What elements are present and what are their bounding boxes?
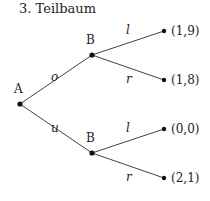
payoff-4: (2,1) bbox=[171, 171, 199, 185]
node-label-B-upper: B bbox=[86, 33, 95, 47]
payoff-3: (0,0) bbox=[171, 122, 199, 136]
node-B-upper bbox=[89, 52, 94, 57]
payoff-1: (1,9) bbox=[171, 24, 199, 38]
edge-label-lower-l: l bbox=[126, 121, 130, 135]
edge-label-upper-r: r bbox=[126, 72, 133, 86]
leaf-1 bbox=[162, 29, 166, 33]
edge-label-lower-r: r bbox=[126, 170, 133, 184]
node-label-B-lower: B bbox=[86, 131, 95, 145]
leaf-4 bbox=[162, 176, 166, 180]
edge-label-u: u bbox=[51, 121, 59, 135]
leaf-3 bbox=[162, 127, 166, 131]
edge-label-upper-l: l bbox=[126, 23, 130, 37]
node-A bbox=[17, 101, 22, 106]
node-B-lower bbox=[89, 150, 94, 155]
game-tree: A B B o u l r l r (1,9) (1,8) (0,0) (2,1… bbox=[0, 0, 210, 201]
leaf-2 bbox=[162, 78, 166, 82]
edge-label-o: o bbox=[51, 70, 58, 84]
payoff-2: (1,8) bbox=[171, 73, 199, 87]
node-label-A: A bbox=[13, 82, 23, 96]
